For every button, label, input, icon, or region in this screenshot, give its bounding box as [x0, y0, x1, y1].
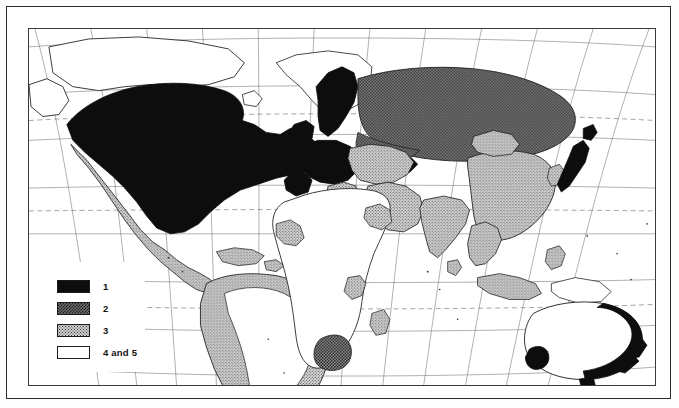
legend-label-2: 2 — [103, 303, 108, 314]
legend-label-4: 4 and 5 — [103, 347, 137, 358]
map-legend: 1 2 3 4 and 5 — [29, 262, 145, 372]
legend-item-1[interactable]: 1 — [57, 279, 108, 293]
legend-label-3: 3 — [103, 325, 108, 336]
legend-item-3[interactable]: 3 — [57, 323, 108, 337]
legend-swatch-4 — [57, 346, 90, 359]
legend-item-2[interactable]: 2 — [57, 301, 108, 315]
legend-swatch-1 — [57, 280, 90, 293]
legend-swatch-2 — [57, 302, 90, 315]
legend-label-1: 1 — [103, 281, 108, 292]
region-australia-southwest — [525, 346, 548, 369]
region-south-africa — [314, 335, 351, 371]
legend-swatch-3 — [57, 324, 90, 337]
map-figure: 1 2 3 4 and 5 — [0, 0, 679, 408]
legend-item-4[interactable]: 4 and 5 — [57, 345, 137, 359]
